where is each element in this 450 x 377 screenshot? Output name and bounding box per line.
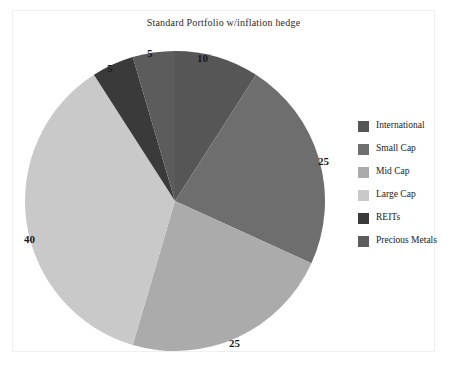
pie-svg (24, 50, 326, 352)
legend-item-precious-metals[interactable]: Precious Metals (358, 235, 446, 247)
pie-value-label: 5 (107, 62, 113, 74)
legend-item-mid-cap[interactable]: Mid Cap (358, 166, 446, 178)
legend-swatch-icon (358, 190, 369, 201)
legend-item-international[interactable]: International (358, 120, 446, 132)
pie-value-label: 5 (147, 47, 153, 59)
legend-swatch-icon (358, 167, 369, 178)
legend-swatch-icon (358, 213, 369, 224)
legend-item-label: Precious Metals (376, 235, 437, 246)
legend-item-small-cap[interactable]: Small Cap (358, 143, 446, 155)
pie-value-label: 25 (229, 337, 240, 349)
pie-value-label: 40 (24, 233, 35, 245)
legend-swatch-icon (358, 144, 369, 155)
legend-swatch-icon (358, 236, 369, 247)
legend-swatch-icon (358, 121, 369, 132)
legend-item-label: REITs (376, 212, 400, 223)
legend-item-label: Mid Cap (376, 166, 410, 177)
legend-item-label: Large Cap (376, 189, 416, 200)
chart-title: Standard Portfolio w/inflation hedge (13, 17, 434, 28)
legend-item-label: Small Cap (376, 143, 416, 154)
legend-item-label: International (376, 120, 425, 131)
pie-value-label: 25 (318, 155, 329, 167)
pie-value-label: 10 (197, 52, 208, 64)
chart-legend: InternationalSmall CapMid CapLarge CapRE… (358, 120, 446, 258)
pie-slices (25, 51, 325, 351)
pie-chart (24, 50, 326, 352)
legend-item-large-cap[interactable]: Large Cap (358, 189, 446, 201)
legend-item-reits[interactable]: REITs (358, 212, 446, 224)
